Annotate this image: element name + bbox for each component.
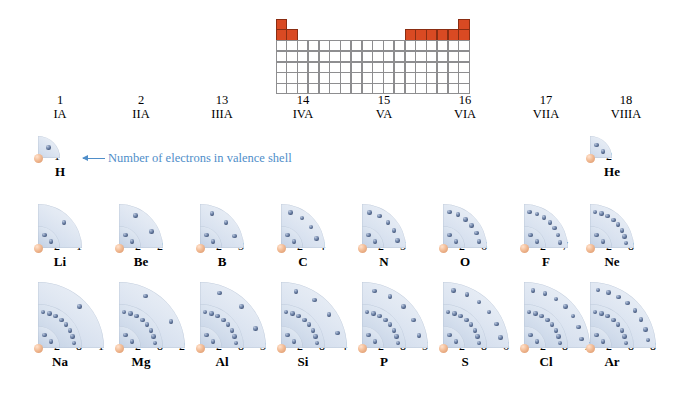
group-roman: VIIA bbox=[506, 107, 586, 122]
periodic-table-cell bbox=[362, 62, 373, 73]
nucleus bbox=[358, 244, 367, 253]
periodic-table-cell bbox=[351, 51, 362, 62]
electron bbox=[311, 328, 316, 333]
element-symbol-ne: Ne bbox=[582, 254, 642, 270]
atom-ar: 288Ar bbox=[590, 270, 670, 370]
electron bbox=[401, 304, 406, 309]
electron bbox=[373, 239, 378, 244]
periodic-table-cell bbox=[362, 19, 373, 30]
periodic-table-cell bbox=[329, 29, 340, 40]
periodic-table-cell bbox=[448, 29, 459, 40]
atom-b: 23B bbox=[200, 170, 280, 270]
electron bbox=[372, 289, 377, 294]
electron bbox=[149, 328, 154, 333]
periodic-table-cell bbox=[458, 19, 469, 30]
element-symbol-ar: Ar bbox=[582, 354, 642, 370]
element-symbol-b: B bbox=[192, 254, 252, 270]
electron bbox=[62, 220, 67, 225]
periodic-table-cell bbox=[329, 19, 340, 30]
group-header-13: 13IIIA bbox=[182, 93, 262, 122]
nucleus bbox=[34, 244, 43, 253]
electron bbox=[211, 239, 216, 244]
periodic-table-cell bbox=[458, 51, 469, 62]
group-roman: VA bbox=[344, 107, 424, 122]
periodic-table-cell bbox=[297, 19, 308, 30]
atom-o: 26O bbox=[443, 170, 523, 270]
element-symbol-cl: Cl bbox=[516, 354, 576, 370]
electron bbox=[643, 327, 648, 332]
electron bbox=[313, 334, 318, 339]
periodic-table-cell bbox=[329, 51, 340, 62]
periodic-table-cell bbox=[405, 19, 416, 30]
periodic-table-cell bbox=[372, 40, 383, 51]
electron bbox=[47, 311, 52, 316]
atom-li: 21Li bbox=[38, 170, 118, 270]
electron bbox=[601, 339, 606, 344]
periodic-table-cell bbox=[297, 40, 308, 51]
periodic-table-cell bbox=[286, 40, 297, 51]
periodic-table-cell bbox=[437, 51, 448, 62]
electron bbox=[288, 210, 293, 215]
periodic-table-cell bbox=[405, 51, 416, 62]
element-symbol-li: Li bbox=[30, 254, 90, 270]
periodic-table-cell bbox=[362, 40, 373, 51]
electron bbox=[477, 239, 482, 244]
electron bbox=[611, 318, 616, 323]
electron bbox=[133, 213, 138, 218]
element-symbol-p: P bbox=[354, 354, 414, 370]
electron bbox=[209, 311, 214, 316]
group-header-17: 17VIIA bbox=[506, 93, 586, 122]
group-number: 17 bbox=[506, 93, 586, 107]
group-header-16: 16VIA bbox=[425, 93, 505, 122]
electron bbox=[558, 240, 563, 245]
nucleus bbox=[34, 154, 43, 163]
group-roman: IVA bbox=[263, 107, 343, 122]
element-symbol-be: Be bbox=[111, 254, 171, 270]
electron bbox=[469, 223, 474, 228]
electron bbox=[563, 304, 568, 309]
periodic-table-cell bbox=[351, 40, 362, 51]
periodic-table-cell bbox=[319, 51, 330, 62]
periodic-table-cell bbox=[372, 72, 383, 83]
electron bbox=[622, 234, 627, 239]
nucleus bbox=[196, 344, 205, 353]
periodic-table-cell bbox=[426, 40, 437, 51]
periodic-table-cell bbox=[340, 62, 351, 73]
atom-n: 25N bbox=[362, 170, 442, 270]
electron bbox=[253, 326, 258, 331]
periodic-table-cell bbox=[276, 51, 287, 62]
electron bbox=[535, 339, 540, 344]
periodic-table-cell bbox=[297, 51, 308, 62]
electron bbox=[232, 334, 237, 339]
periodic-table-cell bbox=[458, 72, 469, 83]
electron bbox=[327, 312, 332, 317]
electron bbox=[395, 238, 400, 243]
electron bbox=[314, 236, 319, 241]
electron bbox=[616, 295, 621, 300]
electron bbox=[599, 311, 604, 316]
nucleus bbox=[34, 344, 43, 353]
periodic-table-cell bbox=[372, 62, 383, 73]
periodic-table-cell bbox=[286, 29, 297, 40]
nucleus bbox=[115, 344, 124, 353]
periodic-table-cell bbox=[286, 62, 297, 73]
element-symbol-al: Al bbox=[192, 354, 252, 370]
periodic-table-cell bbox=[276, 72, 287, 83]
periodic-table-cell bbox=[340, 51, 351, 62]
periodic-table-cell bbox=[319, 62, 330, 73]
periodic-table-cell bbox=[308, 40, 319, 51]
electron bbox=[221, 318, 226, 323]
periodic-table-cell bbox=[340, 40, 351, 51]
group-roman: VIA bbox=[425, 107, 505, 122]
electron bbox=[302, 318, 307, 323]
nucleus bbox=[358, 344, 367, 353]
periodic-table-cell bbox=[351, 72, 362, 83]
atom-al: 283Al bbox=[200, 270, 280, 370]
electron bbox=[620, 328, 625, 333]
periodic-table-cell bbox=[351, 62, 362, 73]
periodic-table-cell bbox=[415, 19, 426, 30]
nucleus bbox=[586, 244, 595, 253]
periodic-table-cell bbox=[448, 72, 459, 83]
electron bbox=[599, 211, 604, 216]
periodic-table-cell bbox=[426, 72, 437, 83]
